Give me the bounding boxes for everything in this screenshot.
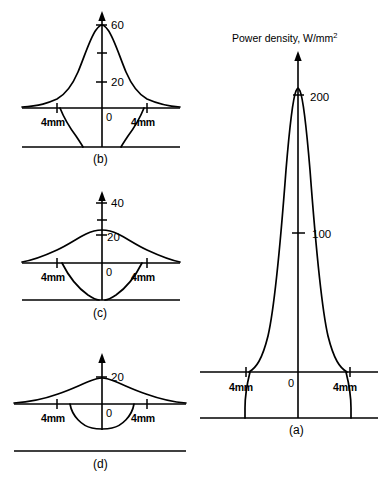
panel-a-axis-title-text: Power density, W/mm bbox=[232, 32, 334, 44]
panel-a-below-curve-left bbox=[245, 372, 250, 418]
panel-b-ylabel-60: 60 bbox=[111, 19, 124, 31]
panel-b-axis-arrowhead bbox=[98, 11, 105, 21]
panel-d-xlabel-left: 4mm bbox=[41, 412, 65, 424]
panel-a-axis-title: Power density, W/mm2 bbox=[232, 31, 338, 44]
panel-a-axis-title-superscript: 2 bbox=[333, 31, 337, 40]
panel-b-ylabel-20: 20 bbox=[111, 76, 124, 88]
panel-a-xlabel-right: 4mm bbox=[333, 381, 357, 393]
panel-b-xlabel-left: 4mm bbox=[41, 116, 65, 128]
panel-b-zero-label: 0 bbox=[106, 111, 112, 123]
panel-c-below-curve-left bbox=[62, 263, 99, 300]
panel-c: 40 20 4mm 4mm 0 (c) bbox=[22, 191, 180, 320]
panel-c-xlabel-left: 4mm bbox=[41, 271, 65, 283]
panel-d-axis-arrowhead bbox=[98, 353, 105, 363]
panel-a-xlabel-left: 4mm bbox=[229, 381, 253, 393]
panel-d: 20 4mm 4mm 0 (d) bbox=[14, 353, 186, 471]
panel-a-zero-label: 0 bbox=[288, 377, 294, 389]
panel-d-zero-label: 0 bbox=[106, 407, 112, 419]
panel-d-caption: (d) bbox=[93, 457, 108, 471]
panel-a-axis-arrowhead bbox=[294, 51, 301, 61]
panel-a-caption: (a) bbox=[289, 423, 304, 437]
panel-a-below-curve-right bbox=[346, 372, 351, 418]
panel-b-intensity-curve bbox=[22, 25, 180, 107]
figure-container: 60 20 4mm 4mm 0 (b) 40 20 bbox=[0, 0, 384, 480]
panel-c-zero-label: 0 bbox=[106, 266, 112, 278]
panel-a-ylabel-200: 200 bbox=[310, 91, 329, 103]
panel-c-caption: (c) bbox=[93, 306, 107, 320]
panel-b-caption: (b) bbox=[93, 152, 108, 166]
power-density-figure: 60 20 4mm 4mm 0 (b) 40 20 bbox=[0, 0, 384, 480]
panel-c-ylabel-40: 40 bbox=[111, 197, 124, 209]
panel-d-intensity-curve bbox=[14, 378, 186, 403]
panel-b: 60 20 4mm 4mm 0 (b) bbox=[22, 11, 180, 166]
panel-c-axis-arrowhead bbox=[98, 191, 105, 201]
panel-a: Power density, W/mm2 200 100 4mm 4mm 0 bbox=[200, 31, 378, 437]
panel-d-xlabel-right: 4mm bbox=[131, 412, 155, 424]
